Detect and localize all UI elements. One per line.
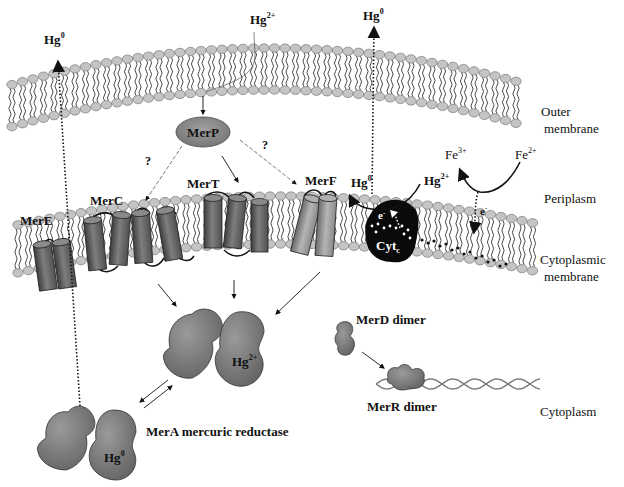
merp-protein: MerP bbox=[176, 117, 230, 147]
cytoplasmic-membrane-label-2: membrane bbox=[544, 269, 599, 284]
mera-reverse-arrow bbox=[140, 380, 168, 402]
outer-membrane-label-1: Outer bbox=[541, 104, 571, 119]
fe3-label: Fe3+ bbox=[445, 146, 467, 162]
merp-to-mert-arrow bbox=[222, 156, 238, 182]
mert-protein bbox=[204, 192, 268, 256]
hg0-left-label: Hg0 bbox=[44, 31, 65, 47]
diagram-canvas: e- Cytc MerP Hg2+ Hg0 MerA mercuric redu… bbox=[0, 0, 624, 487]
merd-to-merr-arrow bbox=[362, 352, 384, 368]
merp-to-merc-arrow bbox=[146, 146, 182, 200]
hg2-outer-label: Hg2+ bbox=[250, 11, 276, 27]
merp-to-merf-arrow bbox=[240, 140, 296, 184]
question-mark-left: ? bbox=[145, 154, 151, 168]
merd-dimer bbox=[335, 322, 355, 356]
merc-label: MerC bbox=[90, 193, 123, 208]
hg0-periplasm-label: Hg0 bbox=[351, 174, 372, 190]
hg2-periplasm-label: Hg2+ bbox=[424, 172, 450, 188]
hg0-top-right-label: Hg0 bbox=[363, 7, 384, 23]
periplasm-label: Periplasm bbox=[544, 191, 596, 206]
mera-label: MerA mercuric reductase bbox=[146, 424, 289, 439]
merf-to-mera-arrow bbox=[276, 272, 320, 314]
outer-membrane-label-2: membrane bbox=[544, 121, 599, 136]
merr-dimer bbox=[387, 364, 424, 390]
merd-label: MerD dimer bbox=[356, 312, 426, 327]
fe-oxidation-arrow bbox=[460, 162, 520, 192]
merc-protein bbox=[83, 205, 194, 271]
merr-label: MerR dimer bbox=[367, 399, 437, 414]
fe2-label: Fe2+ bbox=[515, 146, 537, 162]
merc-to-mera-arrow bbox=[158, 284, 176, 306]
outer-membrane bbox=[7, 44, 521, 131]
mer-system-diagram: e- Cytc MerP Hg2+ Hg0 MerA mercuric redu… bbox=[0, 0, 624, 487]
mera-hg2-dimer: Hg2+ bbox=[163, 309, 264, 386]
mera-forward-arrow bbox=[144, 386, 172, 408]
mere-label: MerE bbox=[20, 213, 52, 228]
cytoplasm-label: Cytoplasm bbox=[540, 404, 596, 419]
mert-label: MerT bbox=[187, 176, 220, 191]
mera-hg0-dimer: Hg0 bbox=[37, 406, 136, 480]
cytoplasmic-membrane-label-1: Cytoplasmic bbox=[540, 252, 606, 267]
merp-label: MerP bbox=[187, 125, 219, 140]
merf-label: MerF bbox=[305, 173, 337, 188]
question-mark-right: ? bbox=[262, 138, 268, 152]
